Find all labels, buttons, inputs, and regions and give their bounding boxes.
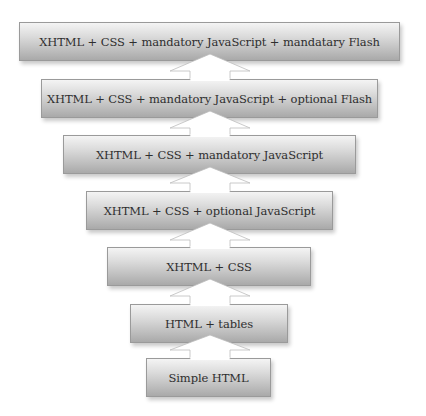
- up-arrow-icon: [170, 167, 250, 192]
- web-technology-progression-diagram: XHTML + CSS + mandatory JavaScript + man…: [0, 0, 426, 416]
- up-arrow-icon: [170, 279, 250, 305]
- connector-arrows: [0, 0, 426, 416]
- up-arrow-icon: [170, 54, 250, 80]
- up-arrow-icon: [170, 111, 250, 136]
- up-arrow-icon: [170, 335, 250, 359]
- up-arrow-icon: [170, 223, 250, 248]
